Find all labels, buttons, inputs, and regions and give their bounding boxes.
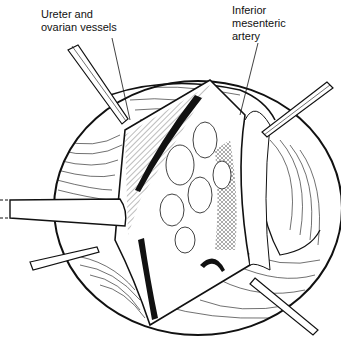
label-inferior-mesenteric-artery: Inferior mesenteric artery bbox=[232, 4, 286, 43]
surgical-illustration bbox=[0, 0, 341, 347]
label-ureter-ovarian-vessels: Ureter and ovarian vessels bbox=[41, 8, 117, 34]
